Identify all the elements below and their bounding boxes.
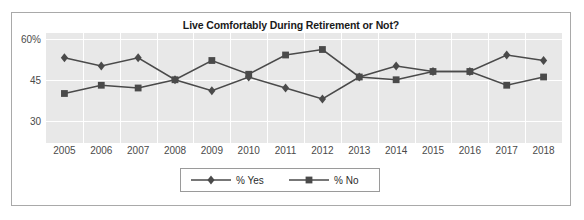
- data-point-marker: [98, 61, 105, 70]
- x-axis-tick-2014: 2014: [385, 145, 407, 156]
- y-axis-tick-labels: 60%4530: [12, 33, 44, 143]
- data-point-marker: [466, 68, 473, 75]
- y-axis-tick-30: 30: [30, 116, 41, 127]
- legend-marker: [306, 177, 313, 184]
- x-axis-tick-2018: 2018: [532, 145, 554, 156]
- x-axis-tick-2015: 2015: [422, 145, 444, 156]
- data-point-marker: [208, 57, 215, 64]
- legend-marker: [207, 175, 214, 184]
- chart-frame: Live Comfortably During Retirement or No…: [11, 12, 571, 206]
- data-point-marker: [98, 82, 105, 89]
- data-point-marker: [135, 53, 142, 62]
- x-axis-tick-labels: 2005200620072008200920102011201220132014…: [46, 145, 562, 161]
- data-point-marker: [430, 68, 437, 75]
- data-point-marker: [135, 85, 142, 92]
- x-axis-tick-2009: 2009: [201, 145, 223, 156]
- x-axis-tick-2011: 2011: [275, 145, 297, 156]
- chart-legend: % Yes% No: [180, 168, 380, 192]
- series-yes: [61, 50, 547, 103]
- plot-wrapper: [46, 33, 562, 143]
- legend-diamond-icon: [191, 173, 231, 187]
- data-point-marker: [172, 76, 179, 83]
- y-axis-tick-45: 45: [30, 74, 41, 85]
- data-point-marker: [61, 90, 68, 97]
- series-no: [61, 46, 547, 97]
- data-point-marker: [319, 94, 326, 103]
- data-point-marker: [282, 83, 289, 92]
- data-point-marker: [245, 71, 252, 78]
- data-point-marker: [540, 74, 547, 81]
- legend-square-icon: [289, 173, 329, 187]
- data-point-marker: [356, 74, 363, 81]
- legend-item-yes[interactable]: % Yes: [191, 169, 264, 191]
- x-axis-tick-2006: 2006: [90, 145, 112, 156]
- data-point-marker: [282, 52, 289, 59]
- chart-title: Live Comfortably During Retirement or No…: [12, 19, 570, 31]
- data-point-marker: [393, 61, 400, 70]
- data-point-marker: [319, 46, 326, 53]
- series-layer: [46, 33, 562, 143]
- x-axis-tick-2008: 2008: [164, 145, 186, 156]
- x-axis-tick-2013: 2013: [348, 145, 370, 156]
- data-point-marker: [208, 86, 215, 95]
- x-axis-tick-2007: 2007: [127, 145, 149, 156]
- data-point-marker: [540, 56, 547, 65]
- data-point-marker: [393, 76, 400, 83]
- legend-label: % No: [334, 175, 358, 186]
- data-point-marker: [61, 53, 68, 62]
- series-line: [64, 55, 543, 99]
- x-axis-tick-2005: 2005: [53, 145, 75, 156]
- x-axis-tick-2016: 2016: [459, 145, 481, 156]
- x-axis-tick-2017: 2017: [496, 145, 518, 156]
- x-axis-tick-2012: 2012: [311, 145, 333, 156]
- legend-item-no[interactable]: % No: [289, 169, 358, 191]
- legend-label: % Yes: [236, 175, 264, 186]
- x-axis-tick-2010: 2010: [238, 145, 260, 156]
- data-point-marker: [503, 50, 510, 59]
- y-axis-tick-60: 60%: [21, 33, 41, 44]
- data-point-marker: [503, 82, 510, 89]
